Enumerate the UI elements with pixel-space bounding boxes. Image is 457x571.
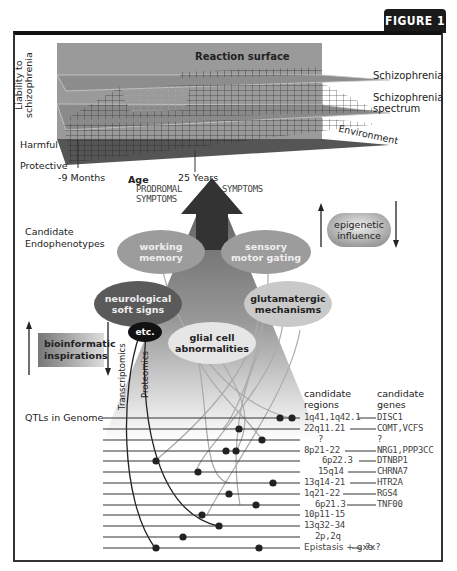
- candidate-regions-heading: candidate regions: [304, 388, 351, 410]
- candidate-genes-heading: candidate genes: [377, 388, 424, 410]
- gene-row-0: DISC1: [377, 412, 403, 423]
- reaction-surface-title: Reaction surface: [195, 51, 290, 62]
- region-row-11: 2p,2q: [315, 531, 341, 542]
- prodromal-line1: PRODROMAL: [136, 184, 182, 194]
- symptoms-label: SYMPTOMS: [222, 184, 263, 195]
- region-row-4: 6p22.3: [322, 455, 353, 466]
- prodromal-symptoms-label: PRODROMAL SYMPTOMS: [136, 184, 182, 204]
- gene-row-6: HTR2A: [377, 477, 403, 488]
- neurological-line1: neurological: [105, 293, 171, 304]
- age-start-label: -9 Months: [58, 172, 105, 183]
- glutamatergic-line1: glutamatergic: [250, 293, 325, 304]
- epigenetic-line1: epigenetic: [327, 219, 391, 230]
- proteomics-label: Proteomics: [140, 351, 151, 398]
- region-row-10: 13q32-34: [304, 520, 345, 531]
- region-row-12: Epistasis + gxe: [304, 542, 373, 553]
- qtl-heading: QTLs in Genome: [25, 412, 103, 423]
- epigenetic-influence-pill: epigenetic influence: [327, 219, 391, 241]
- y-axis-label-line2: schizophrenia: [24, 52, 34, 118]
- epigenetic-line2: influence: [327, 230, 391, 241]
- region-row-6: 13q14-21: [304, 477, 345, 488]
- neurological-line2: soft signs: [105, 304, 171, 315]
- gene-row-1: COMT,VCFS: [377, 423, 423, 434]
- ellipse-neurological-soft-signs: neurologicalsoft signs: [94, 281, 182, 327]
- sensory-line1: sensory: [231, 241, 301, 252]
- spectrum-label: Schizophrenia spectrum: [373, 92, 443, 114]
- y-axis-label: Liability to schizophrenia: [14, 52, 34, 118]
- glutamatergic-line2: mechanisms: [250, 304, 325, 315]
- region-row-2: ?: [318, 434, 323, 445]
- protective-label: Protective: [20, 160, 68, 171]
- genes-heading-line1: candidate: [377, 388, 424, 399]
- region-row-7: 1q21-22: [304, 488, 340, 499]
- genes-heading-line2: genes: [377, 399, 424, 410]
- spectrum-label-line1: Schizophrenia: [373, 92, 443, 103]
- bioinformatic-line1: bioinformatic: [44, 338, 116, 350]
- ellipse-etc: etc.: [128, 322, 162, 342]
- working-memory-line1: working: [139, 241, 183, 252]
- endophenotypes-heading: Candidate Endophenotypes: [25, 226, 105, 250]
- sensory-line2: motor gating: [231, 252, 301, 263]
- ellipse-glial-cell-abnormalities: glial cellabnormalities: [168, 322, 256, 364]
- schizophrenia-label: Schizophrenia: [373, 70, 443, 81]
- harmful-label: Harmful: [20, 139, 58, 150]
- regions-heading-line1: candidate: [304, 388, 351, 399]
- gene-row-2: ?: [377, 434, 382, 445]
- region-row-5: 15q14: [318, 466, 344, 477]
- ellipse-working-memory: workingmemory: [117, 230, 205, 274]
- age-end-label: 25 Years: [178, 172, 218, 183]
- gene-row-5: CHRNA7: [377, 466, 408, 477]
- regions-heading-line2: regions: [304, 399, 351, 410]
- spectrum-label-line2: spectrum: [373, 103, 443, 114]
- gene-row-8: TNF00: [377, 499, 403, 510]
- prodromal-line2: SYMPTOMS: [136, 194, 182, 204]
- etc-label: etc.: [135, 327, 154, 338]
- transcriptomics-label: Transcriptomics: [117, 343, 128, 410]
- gene-row-7: RGS4: [377, 488, 397, 499]
- endophenotypes-heading-line1: Candidate: [25, 226, 105, 238]
- gene-row-12: ?x?: [365, 542, 380, 553]
- glial-line2: abnormalities: [175, 343, 249, 354]
- bioinformatic-line2: inspirations: [44, 350, 116, 362]
- ellipse-sensory-motor-gating: sensorymotor gating: [221, 230, 311, 274]
- ellipse-glutamatergic-mechanisms: glutamatergicmechanisms: [244, 281, 332, 327]
- reaction-surface-plot: [57, 43, 390, 172]
- glial-line1: glial cell: [175, 332, 249, 343]
- region-row-0: 1q41,1q42.1: [304, 412, 360, 423]
- region-row-9: 10p11-15: [304, 509, 345, 520]
- working-memory-line2: memory: [139, 252, 183, 263]
- region-row-1: 22q11.21: [304, 423, 345, 434]
- endophenotypes-heading-line2: Endophenotypes: [25, 238, 105, 250]
- gene-row-4: DTNBP1: [377, 455, 408, 466]
- bioinformatic-inspirations-box: bioinformatic inspirations: [44, 338, 116, 362]
